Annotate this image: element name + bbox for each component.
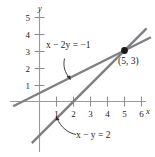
intersection-point-marker xyxy=(121,47,128,54)
x-tick-label-5: 5 xyxy=(122,109,127,119)
y-axis-label: y xyxy=(37,3,42,13)
y-tick-label-5: 5 xyxy=(26,13,31,23)
x-tick-label-4: 4 xyxy=(105,109,110,119)
y-tick-labels: 1 2 3 4 5 xyxy=(26,13,31,91)
leader-lower-curve xyxy=(57,119,76,135)
graph-figure: 1 2 3 4 5 6 1 2 3 4 5 y x xyxy=(0,0,155,157)
y-tick-label-2: 2 xyxy=(26,64,31,74)
leader-upper-curve xyxy=(64,59,70,79)
x-tick-label-6: 6 xyxy=(139,109,144,119)
coordinate-plot: 1 2 3 4 5 6 1 2 3 4 5 y x xyxy=(0,0,155,157)
x-axis-label: x xyxy=(145,106,150,116)
line-x-minus-y-equals-2 xyxy=(32,28,147,143)
line-x-minus-2y-equals-neg1 xyxy=(13,37,151,106)
x-tick-labels: 1 2 3 4 5 6 xyxy=(54,109,144,119)
axes-group xyxy=(10,10,146,152)
y-tick-label-4: 4 xyxy=(26,30,31,40)
leader-upper xyxy=(64,59,71,81)
x-tick-label-3: 3 xyxy=(88,109,93,119)
x-tick-label-2: 2 xyxy=(71,109,76,119)
y-tick-label-1: 1 xyxy=(26,81,31,91)
y-tick-label-3: 3 xyxy=(26,47,31,57)
